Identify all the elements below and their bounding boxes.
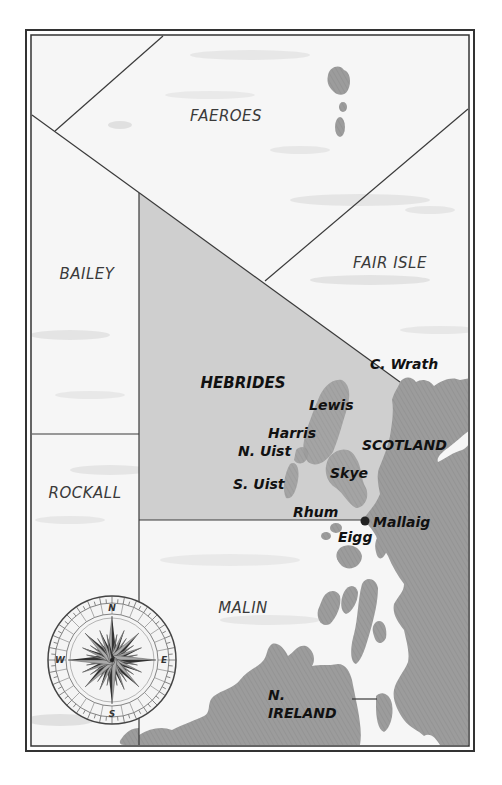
compass-east-label: E bbox=[161, 655, 168, 665]
place-label-scotland: SCOTLAND bbox=[362, 437, 447, 453]
place-label-harris: Harris bbox=[268, 425, 316, 441]
place-label-n-ireland-line2: IRELAND bbox=[268, 705, 337, 721]
place-label-s-uist: S. Uist bbox=[233, 476, 286, 492]
place-label-n-uist: N. Uist bbox=[238, 443, 292, 459]
place-label-lewis: Lewis bbox=[309, 397, 353, 413]
faeroes-island-south bbox=[335, 117, 345, 137]
place-label-eigg: Eigg bbox=[338, 529, 372, 545]
place-label-mallaig: Mallaig bbox=[373, 514, 430, 530]
place-label-skye: Skye bbox=[330, 465, 368, 481]
area-label-fair-isle[interactable]: FAIR ISLE bbox=[353, 254, 427, 272]
area-label-bailey[interactable]: BAILEY bbox=[60, 265, 116, 283]
faeroes-island-middle bbox=[339, 102, 347, 112]
area-label-faeroes[interactable]: FAEROES bbox=[190, 107, 262, 125]
compass-north-label: N bbox=[108, 603, 116, 613]
area-label-malin[interactable]: MALIN bbox=[218, 599, 268, 617]
compass-south-label: S bbox=[109, 709, 115, 719]
place-label-n-ireland-line1: N. bbox=[268, 687, 285, 703]
place-label-c-wrath: C. Wrath bbox=[370, 356, 438, 372]
area-label-hebrides[interactable]: HEBRIDES bbox=[201, 374, 286, 392]
compass-rose: N E S W bbox=[48, 596, 176, 724]
place-label-rhum: Rhum bbox=[293, 504, 338, 520]
area-label-rockall[interactable]: ROCKALL bbox=[48, 484, 121, 502]
island-eigg bbox=[321, 532, 331, 540]
shipping-forecast-map: N E S W FAEROES FAIR ISLE BAILEY HEBRIDE… bbox=[0, 0, 502, 785]
compass-center bbox=[110, 658, 114, 662]
compass-west-label: W bbox=[55, 655, 66, 665]
mallaig-marker[interactable] bbox=[361, 517, 370, 526]
